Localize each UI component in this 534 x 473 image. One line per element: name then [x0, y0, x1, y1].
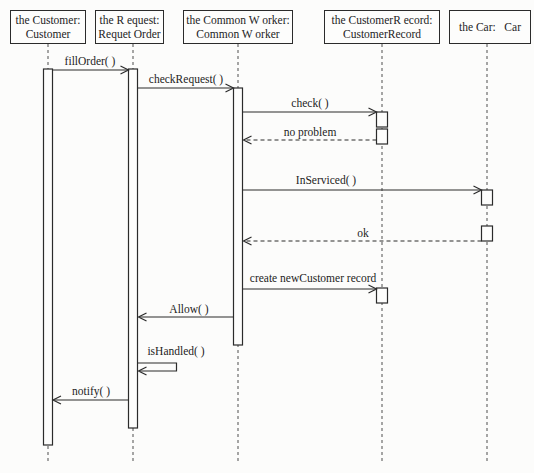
lifeline-head-customer-line1: the Customer: [16, 13, 81, 27]
message-label-check: check( ) [291, 97, 328, 110]
activation-car-2 [482, 226, 493, 241]
lifeline-head-common-worker-line1: the Common W orker: [186, 13, 289, 27]
lifeline-head-request: the R equest: Requet Order [95, 10, 164, 44]
diagram-wires [0, 0, 534, 473]
message-label-checkrequest: checkRequest( ) [149, 73, 223, 86]
activation-request [129, 69, 138, 428]
message-label-fillorder: fillOrder( ) [65, 55, 116, 68]
message-label-ok: ok [357, 227, 369, 240]
message-label-no-problem: no problem [284, 126, 337, 139]
message-label-create-record: create newCustomer record [250, 272, 376, 285]
arrow-ishandled-self-loop [138, 363, 177, 371]
lifeline-head-customer-record-line2: CustomerRecord [343, 27, 421, 41]
sequence-diagram: the Customer: Customer the R equest: Req… [0, 0, 534, 473]
activation-common-worker [234, 88, 243, 345]
message-label-allow: Allow( ) [169, 303, 208, 316]
message-label-inserviced: InServiced( ) [296, 174, 356, 187]
lifeline-head-customer-record-line1: the CustomerR ecord: [332, 13, 433, 27]
message-label-ishandled: isHandled( ) [147, 345, 204, 358]
lifeline-head-common-worker: the Common W orker: Common W orker [183, 10, 293, 44]
lifeline-head-customer-record: the CustomerR ecord: CustomerRecord [324, 10, 440, 44]
lifeline-head-common-worker-line2: Common W orker [196, 27, 279, 41]
activation-car-1 [482, 190, 493, 205]
lifeline-head-car-line1: the Car: Car [459, 20, 521, 34]
lifeline-head-car: the Car: Car [449, 10, 531, 44]
activation-customer-record-1 [377, 112, 388, 127]
lifeline-head-request-line1: the R equest: [99, 13, 159, 27]
message-label-notify: notify( ) [72, 385, 110, 398]
lifeline-head-request-line2: Requet Order [98, 27, 160, 41]
lifeline-head-customer: the Customer: Customer [10, 10, 86, 44]
activation-customer-record-3 [377, 288, 388, 303]
activation-customer-record-2 [377, 129, 388, 144]
lifeline-head-customer-line2: Customer [26, 27, 71, 41]
activation-customer [44, 69, 53, 445]
